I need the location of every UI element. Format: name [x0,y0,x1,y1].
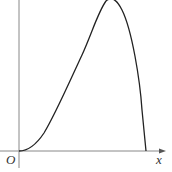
function-graph: O x [0,0,172,172]
x-axis-label: x [155,152,162,167]
origin-label: O [6,152,16,167]
function-curve [19,0,146,151]
